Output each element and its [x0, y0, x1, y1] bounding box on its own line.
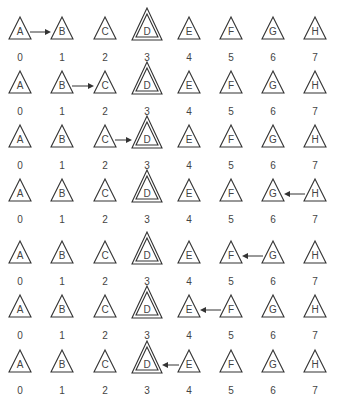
node-index: 6	[255, 160, 291, 171]
node-index: 7	[297, 330, 333, 341]
node-label: C	[87, 250, 123, 261]
node-triangle: A	[2, 68, 38, 98]
node-index: 7	[297, 52, 333, 63]
node-index: 6	[255, 276, 291, 287]
node-triangle: C	[87, 176, 123, 206]
node-index: 2	[87, 106, 123, 117]
target-node-triangle: D	[129, 122, 165, 152]
node-index: 7	[297, 160, 333, 171]
diagram-row: A0B1C2D3E4F5G6H7	[0, 347, 341, 402]
diagram-row: A0B1C2D3E4F5G6H7	[0, 122, 341, 177]
node-index: 5	[213, 276, 249, 287]
node-label: A	[2, 134, 38, 145]
diagram-row: A0B1C2D3E4F5G6H7	[0, 68, 341, 123]
node-index: 1	[44, 276, 80, 287]
node-triangle: H	[297, 292, 333, 322]
node-index: 7	[297, 276, 333, 287]
node-index: 7	[297, 106, 333, 117]
node-label: E	[171, 26, 207, 37]
diagram-row: A0B1C2D3E4F5G6H7	[0, 176, 341, 231]
node-triangle: B	[44, 238, 80, 268]
arrow-icon	[198, 306, 223, 314]
node-index: 3	[129, 330, 165, 341]
node-triangle: C	[87, 238, 123, 268]
node-triangle: H	[297, 122, 333, 152]
arrow-icon	[282, 190, 307, 198]
node-label: D	[129, 26, 165, 37]
node-index: 0	[2, 276, 38, 287]
node-index: 6	[255, 214, 291, 225]
node-label: F	[213, 26, 249, 37]
node-index: 4	[171, 160, 207, 171]
node-label: A	[2, 250, 38, 261]
node-triangle: A	[2, 347, 38, 377]
node-triangle: A	[2, 292, 38, 322]
target-node-triangle: D	[129, 176, 165, 206]
node-label: A	[2, 304, 38, 315]
arrow-icon	[240, 252, 265, 260]
node-label: D	[129, 304, 165, 315]
node-label: B	[44, 304, 80, 315]
node-label: H	[297, 359, 333, 370]
node-index: 4	[171, 106, 207, 117]
node-index: 0	[2, 52, 38, 63]
node-label: H	[297, 250, 333, 261]
node-index: 0	[2, 160, 38, 171]
node-label: B	[44, 250, 80, 261]
node-label: E	[171, 250, 207, 261]
node-index: 0	[2, 106, 38, 117]
node-triangle: G	[255, 292, 291, 322]
node-triangle: F	[213, 122, 249, 152]
node-label: F	[213, 359, 249, 370]
node-index: 1	[44, 160, 80, 171]
diagram-row: A0B1C2D3E4F5G6H7	[0, 14, 341, 69]
node-label: H	[297, 134, 333, 145]
arrow-icon	[70, 82, 96, 90]
node-triangle: E	[171, 122, 207, 152]
node-index: 6	[255, 106, 291, 117]
diagram-row: A0B1C2D3E4F5G6H7	[0, 238, 341, 293]
node-index: 0	[2, 214, 38, 225]
node-label: C	[87, 304, 123, 315]
node-triangle: H	[297, 14, 333, 44]
node-label: A	[2, 80, 38, 91]
node-index: 4	[171, 52, 207, 63]
node-index: 2	[87, 52, 123, 63]
node-index: 4	[171, 214, 207, 225]
node-triangle: E	[171, 176, 207, 206]
node-label: F	[213, 134, 249, 145]
node-label: G	[255, 26, 291, 37]
node-index: 2	[87, 385, 123, 396]
node-label: D	[129, 188, 165, 199]
node-label: D	[129, 250, 165, 261]
node-index: 3	[129, 214, 165, 225]
node-index: 1	[44, 385, 80, 396]
target-node-triangle: D	[129, 292, 165, 322]
node-triangle: B	[44, 347, 80, 377]
node-triangle: H	[297, 68, 333, 98]
node-triangle: B	[44, 176, 80, 206]
node-label: D	[129, 134, 165, 145]
target-node-triangle: D	[129, 14, 165, 44]
node-triangle: C	[87, 14, 123, 44]
node-triangle: C	[87, 347, 123, 377]
node-index: 6	[255, 52, 291, 63]
node-index: 1	[44, 214, 80, 225]
node-label: D	[129, 80, 165, 91]
node-triangle: F	[213, 14, 249, 44]
node-triangle: G	[255, 347, 291, 377]
node-index: 4	[171, 330, 207, 341]
node-label: C	[87, 188, 123, 199]
arrow-icon	[160, 361, 181, 369]
node-label: G	[255, 134, 291, 145]
node-triangle: A	[2, 176, 38, 206]
node-index: 0	[2, 385, 38, 396]
node-label: G	[255, 304, 291, 315]
node-label: G	[255, 359, 291, 370]
node-label: G	[255, 80, 291, 91]
node-label: B	[44, 188, 80, 199]
node-index: 0	[2, 330, 38, 341]
node-label: F	[213, 188, 249, 199]
node-triangle: F	[213, 68, 249, 98]
node-index: 3	[129, 385, 165, 396]
